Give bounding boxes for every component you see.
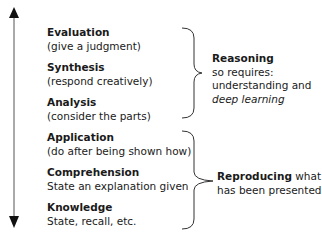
group-line: understanding and (212, 79, 311, 93)
level-application: Application (do after being shown how) (47, 131, 191, 158)
level-description: (give a judgment) (47, 40, 141, 54)
group-label-reproducing: Reproducing what has been presented (217, 170, 322, 197)
level-title: Evaluation (47, 26, 141, 40)
upper-brace-icon (182, 28, 202, 118)
group-title-rest: what (292, 170, 321, 182)
level-analysis: Analysis (consider the parts) (47, 96, 151, 123)
level-comprehension: Comprehension State an explanation given (47, 166, 189, 193)
level-synthesis: Synthesis (respond creatively) (47, 61, 153, 88)
level-title: Analysis (47, 96, 151, 110)
group-line-italic: deep learning (212, 93, 311, 107)
group-label-reasoning: Reasoning so requires: understanding and… (212, 52, 311, 106)
level-title: Application (47, 131, 191, 145)
group-line: so requires: (212, 66, 311, 80)
group-title: Reproducing (217, 170, 292, 182)
level-description: (respond creatively) (47, 75, 153, 89)
level-title: Synthesis (47, 61, 153, 75)
group-line: has been presented (217, 184, 322, 198)
level-knowledge: Knowledge State, recall, etc. (47, 201, 136, 228)
level-description: (do after being shown how) (47, 145, 191, 159)
level-description: State an explanation given (47, 180, 189, 194)
group-title: Reasoning (212, 52, 311, 66)
level-evaluation: Evaluation (give a judgment) (47, 26, 141, 53)
vertical-double-arrow-icon (9, 7, 19, 228)
level-title: Comprehension (47, 166, 189, 180)
level-title: Knowledge (47, 201, 136, 215)
level-description: State, recall, etc. (47, 215, 136, 229)
level-description: (consider the parts) (47, 110, 151, 124)
